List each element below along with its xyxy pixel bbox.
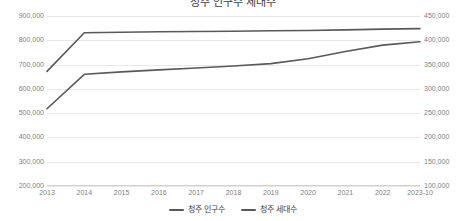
- line-chart: 청주 인구수 세대수 200,000300,000400,000500,0006…: [0, 0, 466, 221]
- x-axis-tick: 2023-10: [407, 188, 433, 197]
- y-axis-right-tick: 400,000: [424, 36, 449, 44]
- x-axis-tick: 2015: [114, 188, 130, 197]
- legend-item[interactable]: 청주 세대수: [241, 205, 297, 215]
- y-axis-right-tick: 150,000: [424, 158, 449, 166]
- x-axis-tick: 2017: [188, 188, 204, 197]
- y-axis-left-tick: 500,000: [19, 109, 44, 117]
- y-axis-right-tick: 450,000: [424, 12, 449, 20]
- y-axis-right-tick: 250,000: [424, 109, 449, 117]
- legend-label: 청주 세대수: [260, 205, 297, 215]
- y-axis-left-tick: 400,000: [19, 133, 44, 141]
- legend-label: 청주 인구수: [188, 205, 225, 215]
- legend-line-icon: [241, 209, 256, 211]
- chart-legend: 청주 인구수청주 세대수: [0, 202, 466, 218]
- x-axis-tick: 2018: [226, 188, 242, 197]
- x-axis-tick: 2022: [375, 188, 391, 197]
- y-axis-right-tick: 200,000: [424, 133, 449, 141]
- legend-item[interactable]: 청주 인구수: [169, 205, 225, 215]
- x-axis-tick: 2013: [39, 188, 55, 197]
- y-axis-left-tick: 900,000: [19, 12, 44, 20]
- series-lines: [47, 16, 420, 186]
- x-axis-tick: 2014: [77, 188, 93, 197]
- series-line: [47, 29, 420, 72]
- plot-area: [47, 16, 420, 186]
- legend-line-icon: [169, 209, 184, 211]
- x-axis-tick: 2021: [338, 188, 354, 197]
- y-axis-left-tick: 600,000: [19, 85, 44, 93]
- y-axis-right-tick: 350,000: [424, 61, 449, 69]
- y-axis-left-tick: 700,000: [19, 61, 44, 69]
- y-axis-left-tick: 300,000: [19, 158, 44, 166]
- y-axis-left-tick: 800,000: [19, 36, 44, 44]
- gridline: [47, 186, 420, 187]
- x-axis-tick: 2020: [300, 188, 316, 197]
- chart-title: 청주 인구수 세대수: [0, 0, 466, 7]
- series-line: [47, 42, 420, 109]
- x-axis-tick: 2019: [263, 188, 279, 197]
- x-axis-tick: 2016: [151, 188, 167, 197]
- y-axis-right-tick: 300,000: [424, 85, 449, 93]
